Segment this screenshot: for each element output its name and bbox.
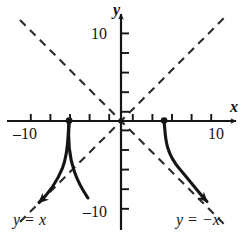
curve-left-branch-visible [39,121,69,203]
x-axis-tick-label-negative-10: –10 [13,126,37,142]
equation-label-y-equals-negative-x: y = −x [176,212,220,228]
y-axis-label: y [113,2,120,18]
equation-label-y-equals-x: y = x [13,212,46,228]
x-axis-label: x [230,99,238,115]
curve-right-branch [164,121,207,202]
endpoint-dot-right [161,117,168,124]
endpoint-dot-left [66,117,73,124]
solid-curves [39,121,207,203]
y-axis-tick-label-10: 10 [91,26,107,42]
graph-figure: y x 10 –10 –10 10 y = x y = −x [0,0,244,232]
x-axis-tick-label-10: 10 [208,126,224,142]
coordinate-plane-svg [0,0,244,232]
curve-left-branch [69,121,88,198]
y-axis-tick-label-negative-10: –10 [83,204,107,220]
